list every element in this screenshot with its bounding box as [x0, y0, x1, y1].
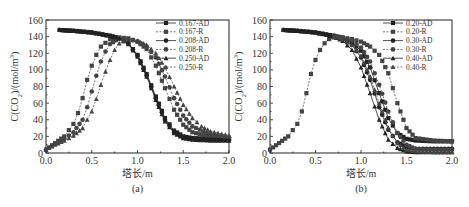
legend-swatch-marker: [164, 30, 168, 34]
y-tick-label: 140: [252, 31, 267, 42]
data-point: [163, 86, 167, 90]
x-tick-label: 1.0: [131, 155, 144, 166]
legend-entry: 0.30-R: [383, 45, 427, 54]
legend-swatch-marker: [391, 30, 395, 34]
data-point: [443, 139, 447, 143]
data-point: [175, 90, 180, 95]
data-point: [167, 74, 172, 79]
legend-entry: 0.250-AD: [156, 54, 210, 63]
series-line: [284, 30, 452, 152]
data-point: [391, 120, 396, 125]
data-point: [71, 122, 75, 126]
legend-entry: 0.30-AD: [383, 36, 433, 45]
y-axis-title: C(CO2)/(mol/m3): [8, 52, 24, 122]
legend-entry: 0.208-AD: [156, 36, 210, 45]
data-point: [386, 109, 391, 114]
data-point: [439, 139, 443, 143]
data-point: [76, 111, 80, 115]
data-point: [160, 79, 164, 83]
data-point: [395, 101, 399, 105]
data-point: [323, 41, 327, 45]
x-tick-label: 0.5: [86, 155, 99, 166]
data-point: [108, 57, 113, 62]
data-point: [184, 117, 189, 122]
panel-b: 0204060801001201401600.00.51.01.52.0塔长/m…: [232, 15, 458, 196]
data-point: [187, 120, 192, 125]
data-point: [309, 72, 313, 76]
y-tick-label: 20: [33, 131, 43, 142]
legend-label: 0.40-R: [406, 63, 427, 72]
legend-label: 0.20-R: [406, 27, 427, 36]
data-point: [368, 59, 373, 64]
data-point: [386, 116, 390, 120]
panel-label: (a): [132, 183, 143, 195]
legend-entry: 0.40-AD: [383, 54, 433, 63]
legend-swatch-marker: [164, 21, 168, 25]
data-point: [386, 71, 390, 75]
y-axis-title-part: ): [233, 52, 245, 55]
series-line: [334, 36, 452, 150]
legend-swatch-marker: [164, 38, 169, 43]
data-point: [401, 118, 405, 122]
y-tick-label: 80: [257, 81, 267, 92]
data-point: [67, 128, 71, 132]
data-point: [80, 117, 85, 122]
data-point: [90, 64, 94, 68]
y-tick-label: 140: [28, 31, 43, 42]
legend-label: 0.208-R: [179, 45, 203, 54]
data-point: [153, 51, 158, 56]
x-tick-label: 0.0: [264, 155, 277, 166]
series-line: [284, 30, 452, 149]
data-point: [372, 104, 377, 109]
data-point: [167, 85, 172, 90]
x-tick-label: 0.5: [309, 155, 322, 166]
legend-label: 0.250-AD: [179, 54, 210, 63]
data-point: [450, 139, 454, 143]
data-point: [377, 105, 382, 110]
data-point: [372, 71, 377, 76]
data-point: [190, 130, 194, 134]
data-point: [424, 137, 428, 141]
data-point: [74, 126, 79, 131]
data-point: [391, 86, 395, 90]
legend-swatch-marker: [164, 47, 169, 52]
data-point: [77, 122, 82, 127]
data-point: [172, 84, 177, 89]
x-tick-label: 1.5: [177, 155, 190, 166]
y-tick-label: 20: [257, 131, 267, 142]
legend-swatch-marker: [391, 21, 395, 25]
data-point: [85, 117, 90, 122]
data-point: [395, 131, 400, 136]
data-point: [175, 113, 179, 117]
data-point: [89, 89, 94, 94]
y-tick-label: 60: [33, 98, 43, 109]
legend-label: 0.208-AD: [179, 36, 210, 45]
legend-label: 0.167-AD: [179, 19, 210, 28]
data-point: [380, 91, 385, 96]
y-axis-title: C(CO2)/(mol/m3): [232, 52, 248, 122]
data-point: [94, 53, 98, 57]
legend-swatch-marker: [391, 38, 396, 43]
data-point: [398, 109, 402, 113]
data-point: [446, 139, 450, 143]
x-axis-title: 塔长/m: [122, 167, 153, 179]
data-point: [380, 124, 385, 129]
data-point: [383, 100, 388, 105]
data-point: [373, 49, 377, 53]
y-tick-label: 120: [252, 48, 267, 59]
data-point: [313, 58, 317, 62]
data-point: [365, 82, 370, 87]
data-point: [178, 118, 182, 122]
data-point: [198, 132, 202, 136]
data-point: [172, 108, 176, 112]
data-point: [398, 135, 403, 140]
data-point: [377, 53, 381, 57]
data-point: [368, 91, 373, 96]
y-tick-label: 100: [252, 64, 267, 75]
legend-label: 0.30-R: [406, 45, 427, 54]
data-point: [99, 82, 104, 87]
data-point: [163, 74, 168, 79]
data-point: [172, 96, 177, 101]
x-tick-label: 1.5: [400, 155, 413, 166]
data-point: [350, 38, 355, 43]
